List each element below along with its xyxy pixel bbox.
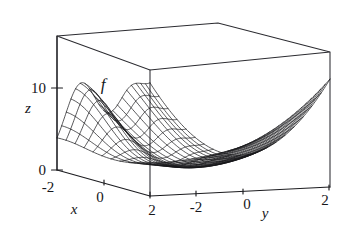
y-axis-label: y (260, 205, 269, 221)
x-tick-label-0: 0 (96, 189, 104, 205)
y-tick-label-0: 0 (243, 196, 251, 212)
z-axis-label: z (24, 100, 31, 116)
y-tick-label-2: 2 (321, 192, 329, 208)
z-tick-label-10: 10 (31, 80, 46, 96)
z-tick-label-0: 0 (39, 162, 47, 178)
surface-plot-canvas: f z x y 10 0 -2 0 2 -2 0 2 (0, 0, 339, 240)
x-tick-label-minus2: -2 (42, 179, 55, 195)
x-tick-label-2: 2 (148, 202, 156, 218)
surface-plot-figure: f z x y 10 0 -2 0 2 -2 0 2 (0, 0, 339, 240)
x-axis-label: x (70, 201, 78, 217)
y-tick-label-minus2: -2 (190, 199, 203, 215)
